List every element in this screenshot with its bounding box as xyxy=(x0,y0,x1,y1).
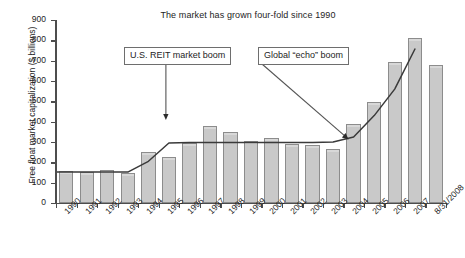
y-axis-tick-label: 900 xyxy=(16,14,46,24)
bar-top-highlight xyxy=(430,66,442,68)
y-axis-tick-label: 600 xyxy=(16,75,46,85)
bar-top-highlight xyxy=(368,103,380,105)
bar xyxy=(264,138,278,203)
x-axis-tick-mark xyxy=(56,203,57,208)
bar-top-highlight xyxy=(60,172,72,174)
bar xyxy=(223,132,237,203)
bar-top-highlight xyxy=(389,63,401,65)
bar-top-highlight xyxy=(163,158,175,160)
bar xyxy=(244,141,258,203)
y-axis-tick-label: 700 xyxy=(16,55,46,65)
plot-area xyxy=(56,20,446,203)
y-axis-tick-label: 200 xyxy=(16,156,46,166)
y-axis-tick-label: 800 xyxy=(16,34,46,44)
chart-title: The market has grown four-fold since 199… xyxy=(118,10,378,20)
y-axis-tick-label: 0 xyxy=(16,197,46,207)
annotation-reit-boom: U.S. REIT market boom xyxy=(124,47,231,65)
bar-top-highlight xyxy=(306,146,318,148)
bar xyxy=(388,62,402,203)
bar xyxy=(305,145,319,203)
bar xyxy=(141,152,155,203)
bar xyxy=(346,124,360,203)
bar-top-highlight xyxy=(224,133,236,135)
bar-top-highlight xyxy=(409,39,421,41)
bar xyxy=(429,65,443,203)
bar xyxy=(367,102,381,203)
bar-top-highlight xyxy=(81,173,93,175)
bar-top-highlight xyxy=(347,125,359,127)
bar-top-highlight xyxy=(327,150,339,152)
bar-top-highlight xyxy=(183,144,195,146)
bar xyxy=(203,126,217,203)
bar-top-highlight xyxy=(265,139,277,141)
bar-top-highlight xyxy=(101,171,113,173)
bar xyxy=(162,157,176,203)
bar xyxy=(326,149,340,203)
y-axis-tick-label: 500 xyxy=(16,95,46,105)
bar xyxy=(408,38,422,203)
bar-top-highlight xyxy=(204,127,216,129)
bar-top-highlight xyxy=(122,174,134,176)
y-axis-tick-label: 300 xyxy=(16,136,46,146)
bar-top-highlight xyxy=(245,142,257,144)
bar-top-highlight xyxy=(142,153,154,155)
bar xyxy=(285,144,299,203)
annotation-echo-boom: Global “echo” boom xyxy=(258,47,349,65)
y-axis-tick-label: 100 xyxy=(16,177,46,187)
bar-top-highlight xyxy=(286,145,298,147)
bar xyxy=(182,143,196,203)
y-axis-tick-label: 400 xyxy=(16,116,46,126)
